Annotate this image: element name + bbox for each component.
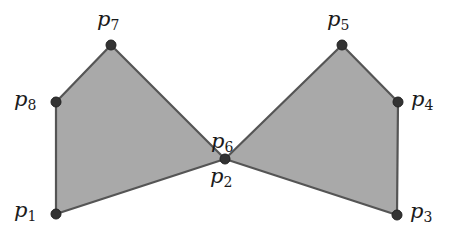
point-p4 xyxy=(393,97,403,107)
diagram-canvas xyxy=(0,0,453,239)
point-p1 xyxy=(51,209,61,219)
bowtie-polygon-diagram: p1 p2 p3 p4 p5 p6 p7 p8 xyxy=(0,0,453,239)
point-p7 xyxy=(106,40,116,50)
right-polygon xyxy=(225,45,398,215)
point-p2-p6 xyxy=(220,154,230,164)
label-p3: p3 xyxy=(410,201,432,224)
left-polygon xyxy=(56,45,225,214)
point-p3 xyxy=(392,210,402,220)
label-p5: p5 xyxy=(327,9,349,32)
label-p8: p8 xyxy=(14,89,36,112)
point-p8 xyxy=(51,97,61,107)
label-p7: p7 xyxy=(97,9,119,32)
point-p5 xyxy=(337,40,347,50)
label-p4: p4 xyxy=(411,89,433,112)
label-p6: p6 xyxy=(211,131,233,154)
label-p2: p2 xyxy=(210,166,232,189)
label-p1: p1 xyxy=(14,200,36,223)
